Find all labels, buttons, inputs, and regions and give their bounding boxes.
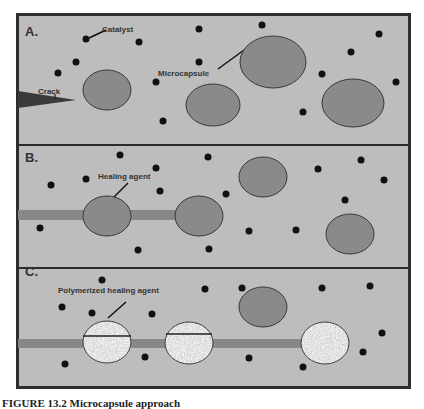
crack-label: Crack — [38, 87, 61, 96]
panel-b-label: B. — [25, 150, 38, 165]
ruptured-microcapsule — [83, 196, 131, 236]
crack-channel — [18, 339, 308, 348]
healing-agent-label: Healing agent — [98, 172, 151, 181]
healing-agent-pointer — [114, 183, 128, 197]
polymerized-agent-label: Polymerized healing agent — [58, 286, 159, 295]
panel-a: A. Crack Catalyst Microcapsule — [18, 22, 400, 128]
panel-c-label: C. — [25, 264, 38, 279]
polymerized-agent-pointer — [108, 302, 126, 318]
microcapsule — [186, 84, 240, 126]
microcapsule — [239, 157, 287, 197]
catalyst-label: Catalyst — [102, 25, 133, 34]
microcapsule — [322, 79, 384, 127]
microcapsule-label: Microcapsule — [158, 69, 210, 78]
microcapsule — [239, 287, 287, 327]
microcapsule — [326, 214, 374, 254]
ruptured-microcapsule — [175, 196, 223, 236]
microcapsule — [240, 36, 306, 88]
panel-c: C. Polymerized healing agent — [18, 264, 386, 371]
microcapsule — [83, 70, 131, 110]
panel-b: B. Healing agent — [18, 150, 388, 254]
panel-a-label: A. — [25, 24, 38, 39]
figure-caption: FIGURE 13.2 Microcapsule approach — [2, 397, 180, 409]
